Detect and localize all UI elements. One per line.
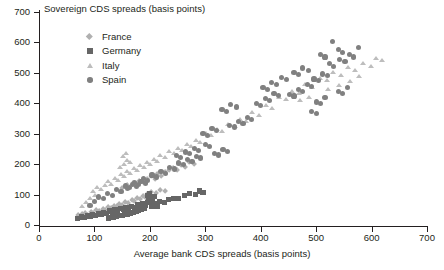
- data-point: [121, 174, 127, 178]
- data-point: [143, 180, 148, 185]
- data-point: [276, 93, 281, 98]
- data-point: [352, 68, 358, 72]
- data-point: [115, 178, 121, 182]
- diamond-marker-icon: [86, 32, 95, 41]
- x-axis-line: [39, 226, 428, 227]
- data-point: [331, 64, 336, 69]
- data-point: [322, 54, 327, 59]
- data-point: [162, 155, 168, 159]
- data-point: [182, 193, 187, 198]
- legend-item-italy[interactable]: Italy: [86, 58, 141, 73]
- scatter-chart: Sovereign CDS spreads (basis points) 010…: [0, 0, 444, 270]
- y-tick-label: 100: [0, 190, 30, 200]
- data-point: [291, 93, 296, 98]
- data-point: [356, 74, 362, 78]
- data-point: [274, 82, 279, 87]
- data-point: [141, 165, 147, 169]
- data-point: [316, 78, 321, 83]
- data-point: [198, 155, 203, 160]
- data-point: [181, 162, 186, 167]
- data-point: [162, 188, 168, 194]
- data-point: [368, 64, 374, 68]
- legend-label: Germany: [102, 45, 141, 56]
- data-point: [356, 45, 361, 50]
- square-marker-icon: [86, 46, 95, 55]
- legend-label: Spain: [102, 74, 126, 85]
- data-point: [325, 87, 331, 91]
- legend-label: France: [102, 31, 132, 42]
- data-point: [152, 202, 157, 207]
- data-point: [147, 162, 153, 166]
- data-point: [176, 196, 181, 201]
- data-point: [178, 155, 183, 160]
- data-point: [249, 110, 255, 114]
- legend-item-spain[interactable]: Spain: [86, 73, 141, 88]
- data-point: [219, 129, 225, 133]
- data-point: [108, 182, 114, 186]
- data-point: [283, 97, 289, 101]
- data-point: [205, 133, 210, 138]
- data-point: [297, 98, 303, 102]
- data-point: [79, 204, 85, 208]
- legend-item-germany[interactable]: Germany: [86, 44, 141, 59]
- x-tick-label: 0: [19, 233, 59, 243]
- circle-marker-icon: [86, 75, 95, 84]
- data-point: [360, 61, 366, 65]
- data-point: [106, 216, 111, 221]
- data-point: [306, 68, 311, 73]
- y-tick-label: 400: [0, 98, 30, 108]
- data-point: [134, 184, 139, 189]
- data-point: [200, 190, 205, 195]
- x-tick-label: 600: [352, 233, 392, 243]
- data-point: [324, 78, 330, 82]
- data-point: [269, 106, 275, 110]
- data-point: [228, 102, 233, 107]
- data-point: [147, 191, 152, 196]
- data-point: [379, 58, 385, 62]
- legend-label: Italy: [102, 60, 119, 71]
- x-axis-title: Average bank CDS spreads (basis points): [0, 248, 444, 259]
- data-point: [196, 148, 201, 153]
- chart-legend: FranceGermanyItalySpain: [86, 29, 141, 87]
- data-point: [345, 85, 350, 90]
- data-point: [318, 101, 323, 106]
- data-point: [216, 152, 221, 157]
- data-point: [296, 72, 301, 77]
- data-point: [347, 79, 353, 83]
- data-point: [337, 57, 342, 62]
- data-point: [110, 193, 115, 198]
- data-point: [267, 98, 272, 103]
- x-tick-label: 300: [185, 233, 225, 243]
- data-point: [163, 171, 168, 176]
- data-point: [87, 203, 92, 208]
- data-point: [330, 39, 335, 44]
- data-point: [123, 151, 129, 155]
- legend-item-france[interactable]: France: [86, 29, 141, 44]
- data-point: [125, 186, 130, 191]
- y-tick-label: 200: [0, 159, 30, 169]
- data-point: [330, 70, 336, 74]
- data-point: [118, 189, 123, 194]
- data-point: [345, 65, 351, 69]
- data-point: [214, 128, 219, 133]
- data-point: [154, 159, 160, 163]
- data-point: [101, 196, 106, 201]
- data-point: [338, 73, 344, 77]
- data-point: [240, 121, 245, 126]
- x-tick-label: 700: [407, 233, 444, 243]
- data-point: [300, 89, 305, 94]
- data-point: [336, 83, 342, 87]
- data-point: [322, 95, 327, 100]
- data-point: [234, 104, 239, 109]
- data-point: [263, 103, 269, 107]
- x-tick-label: 500: [296, 233, 336, 243]
- y-tick: [34, 225, 39, 226]
- data-point: [187, 151, 192, 156]
- data-point: [314, 111, 319, 116]
- data-point: [207, 144, 212, 149]
- y-tick-label: 300: [0, 129, 30, 139]
- y-tick-label: 700: [0, 7, 30, 17]
- data-point: [342, 59, 347, 64]
- data-point: [249, 117, 254, 122]
- data-point: [127, 171, 133, 175]
